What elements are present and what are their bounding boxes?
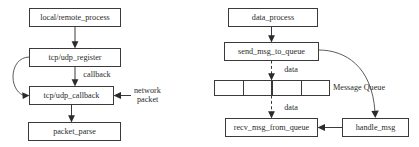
node-label: data_process: [252, 13, 294, 22]
node-local-remote-process[interactable]: local/remote_process: [30, 9, 121, 27]
arrow-network-packet-in: network packet: [114, 86, 162, 105]
edge-label-data-bottom: data: [284, 103, 298, 112]
diagram-canvas: local/remote_process tcp/udp_register ca…: [0, 0, 419, 147]
message-queue-buffer[interactable]: Message Queue: [215, 81, 386, 96]
arrow-head-icon: [268, 35, 275, 42]
arrow-head-icon: [114, 92, 122, 99]
node-label: tcp/udp_register: [48, 53, 101, 62]
arrow-process-to-register: [72, 27, 79, 49]
arrow-dataprocess-to-send: [268, 27, 275, 43]
message-queue-label: Message Queue: [333, 83, 385, 92]
node-label: handle_msg: [356, 123, 396, 132]
node-data-process[interactable]: data_process: [229, 9, 318, 27]
arrow-register-feedback-curve: [13, 57, 30, 99]
arrow-handle-to-recv: [318, 124, 343, 131]
arrow-head-icon: [68, 115, 75, 122]
edge-label-callback: callback: [83, 70, 111, 79]
flow-diagrams-svg: local/remote_process tcp/udp_register ca…: [0, 0, 419, 147]
arrow-head-icon: [72, 41, 79, 48]
diagram-message-queue-flow: data_process send_msg_to_queue data: [215, 9, 409, 137]
node-label: recv_msg_from_queue: [234, 123, 310, 132]
node-label: send_msg_to_queue: [238, 47, 305, 56]
arrow-send-to-queue-data: data: [268, 61, 298, 81]
node-label: packet_parse: [53, 127, 96, 136]
arrow-queue-to-recv-data: data: [268, 96, 298, 119]
arrow-register-to-callback: callback: [72, 67, 112, 87]
arrow-callback-to-parse: [68, 105, 75, 123]
node-recv-msg-from-queue[interactable]: recv_msg_from_queue: [226, 119, 318, 137]
label-network-packet-line1: network: [134, 86, 162, 95]
node-handle-msg[interactable]: handle_msg: [343, 119, 409, 137]
arrow-head-icon: [22, 92, 29, 99]
node-label: tcp/udp_callback: [44, 91, 101, 100]
node-send-msg-to-queue[interactable]: send_msg_to_queue: [225, 43, 319, 61]
arrow-head-icon: [268, 111, 275, 118]
node-tcp-udp-register[interactable]: tcp/udp_register: [30, 49, 121, 67]
edge-label-data-top: data: [284, 65, 298, 74]
arrow-head-icon: [72, 79, 79, 86]
diagram-socket-callback-flow: local/remote_process tcp/udp_register ca…: [13, 9, 162, 141]
node-label: local/remote_process: [40, 13, 110, 22]
label-network-packet-line2: packet: [137, 95, 159, 104]
arrow-head-icon: [268, 73, 275, 80]
arrow-head-icon: [371, 111, 378, 118]
arrow-head-icon: [318, 124, 326, 131]
node-packet-parse[interactable]: packet_parse: [29, 123, 121, 141]
node-tcp-udp-callback[interactable]: tcp/udp_callback: [30, 87, 114, 105]
